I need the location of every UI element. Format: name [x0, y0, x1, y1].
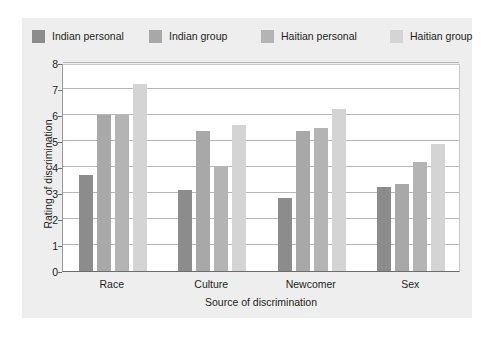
legend-label: Haitian personal	[281, 31, 357, 42]
bar	[377, 187, 391, 272]
bar	[314, 128, 328, 271]
legend-swatch-icon	[32, 30, 45, 43]
y-tick-mark	[58, 168, 62, 169]
bar	[395, 184, 409, 271]
y-tick-mark	[58, 116, 62, 117]
plot-area	[62, 64, 460, 272]
bar	[214, 167, 228, 271]
bar	[196, 131, 210, 271]
bar	[79, 175, 93, 271]
y-tick-label: 2	[24, 214, 58, 226]
bar	[115, 115, 129, 271]
y-tick-mark	[58, 142, 62, 143]
y-tick-label: 1	[24, 240, 58, 252]
y-tick-label: 0	[24, 266, 58, 278]
x-tick-label: Culture	[194, 278, 228, 290]
bar	[178, 190, 192, 271]
chart-legend: Indian personalIndian groupHaitian perso…	[22, 26, 472, 46]
bar	[133, 84, 147, 271]
x-tick-label: Race	[99, 278, 124, 290]
y-tick-mark	[58, 272, 62, 273]
y-axis: Rating of discrimination 012345678	[22, 64, 58, 272]
legend-swatch-icon	[149, 30, 162, 43]
figure: Indian personalIndian groupHaitian perso…	[0, 0, 499, 344]
y-tick-label: 5	[24, 136, 58, 148]
y-tick-mark	[58, 64, 62, 65]
y-tick-mark	[58, 90, 62, 91]
bar	[97, 115, 111, 271]
y-tick-label: 8	[24, 58, 58, 70]
bar	[232, 125, 246, 271]
legend-item-indian-personal: Indian personal	[32, 26, 124, 46]
bar	[332, 109, 346, 272]
y-tick-mark	[58, 246, 62, 247]
x-tick-label: Sex	[401, 278, 419, 290]
y-tick-mark	[58, 220, 62, 221]
bar	[296, 131, 310, 271]
bar	[278, 198, 292, 271]
legend-item-indian-group: Indian group	[149, 26, 227, 46]
y-tick-label: 7	[24, 84, 58, 96]
legend-label: Haitian group	[410, 31, 472, 42]
gridline	[63, 88, 459, 89]
bar	[431, 144, 445, 271]
legend-swatch-icon	[261, 30, 274, 43]
legend-item-haitian-group: Haitian group	[390, 26, 472, 46]
x-tick-label: Newcomer	[286, 278, 336, 290]
legend-label: Indian personal	[52, 31, 124, 42]
gridline	[63, 62, 459, 63]
y-tick-mark	[58, 194, 62, 195]
legend-label: Indian group	[169, 31, 227, 42]
y-tick-label: 3	[24, 188, 58, 200]
x-axis-title: Source of discrimination	[62, 296, 460, 308]
y-tick-label: 4	[24, 162, 58, 174]
y-tick-label: 6	[24, 110, 58, 122]
legend-item-haitian-personal: Haitian personal	[261, 26, 357, 46]
legend-swatch-icon	[390, 30, 403, 43]
bar	[413, 162, 427, 271]
